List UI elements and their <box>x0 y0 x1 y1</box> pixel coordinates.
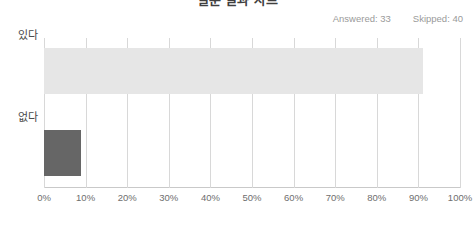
x-tick-label-40: 40% <box>201 192 220 203</box>
x-tick-label-60: 60% <box>284 192 303 203</box>
x-tick-label-70: 70% <box>326 192 345 203</box>
answered-count: Answered: 33 <box>333 13 391 24</box>
x-tick-label-0: 0% <box>37 192 51 203</box>
x-tick-label-30: 30% <box>159 192 178 203</box>
x-tick-label-10: 10% <box>76 192 95 203</box>
survey-bar-chart: 설문 결과 차트 Answered: 33 Skipped: 40 있다없다 0… <box>0 0 475 226</box>
plot-area <box>44 38 460 188</box>
x-tick-label-20: 20% <box>118 192 137 203</box>
x-tick-label-90: 90% <box>409 192 428 203</box>
bar-없다[interactable] <box>44 130 81 176</box>
skipped-count: Skipped: 40 <box>413 13 463 24</box>
x-tick-label-50: 50% <box>242 192 261 203</box>
chart-title: 설문 결과 차트 <box>0 0 475 8</box>
gridline <box>460 38 461 188</box>
response-summary: Answered: 33 Skipped: 40 <box>333 13 463 24</box>
x-tick-label-100: 100% <box>448 192 472 203</box>
bar-있다[interactable] <box>44 48 423 94</box>
x-tick-label-80: 80% <box>367 192 386 203</box>
category-label-0: 있다 <box>0 26 38 42</box>
category-label-1: 없다 <box>0 108 38 124</box>
